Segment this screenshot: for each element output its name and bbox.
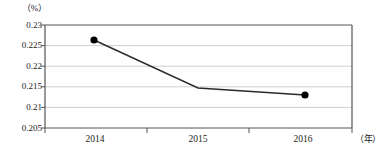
data-point-marker [301,91,308,98]
x-tick-label-2014: 2014 [86,134,105,145]
x-tick-label-2016: 2016 [294,134,313,145]
x-axis-ticks [45,128,352,133]
line-chart: （%） 0.23 0.225 0.22 0.215 0.21 0.205 [0,0,385,160]
data-point-marker [90,36,97,43]
x-axis-unit-label: （年） [355,134,381,145]
x-tick-label-2015: 2015 [189,134,208,145]
